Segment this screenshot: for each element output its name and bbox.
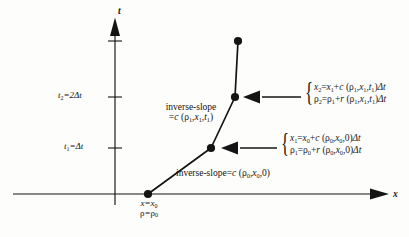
lower-callout: { x1=x0+c(ρ0,x0,0)Δt ρ1=ρ0+r(ρ0,x0,0)Δt [276, 133, 361, 155]
upper-inverse-slope-line1: inverse-slope [141, 102, 241, 112]
x-axis [13, 189, 389, 200]
lower-inverse-slope-line1: inverse-slope=c(ρ0,x0,0) [176, 168, 270, 178]
upper-inverse-slope-line2: =c(ρ1,x1,t1) [141, 112, 241, 122]
lower-callout-brace: { [281, 134, 289, 154]
upper-callout-arrow [243, 91, 301, 104]
point-t1 [207, 144, 215, 152]
upper-callout: { x2=x1+c(ρ1,x1,t1)Δt ρ2=ρ1+r(ρ1,x1,t1)Δ… [300, 82, 386, 104]
t-axis-label: t [118, 6, 121, 16]
x-axis-label: x [393, 189, 398, 199]
lower-callout-eq1: x1=x0+c(ρ0,x0,0)Δt [290, 133, 361, 143]
upper-callout-brace: { [305, 83, 313, 103]
lower-callout-eq2: ρ1=ρ0+r(ρ0,x0,0)Δt [290, 145, 361, 155]
point-t2 [231, 93, 239, 101]
lower-inverse-slope-label: inverse-slope=c(ρ0,x0,0) [176, 168, 270, 178]
t-axis [110, 18, 120, 206]
origin-point-label: x=x0 ρ=ρ0 [122, 199, 176, 218]
point-t3 [234, 37, 242, 45]
characteristic-diagram: t x t2=2Δt t1=Δt x=x0 ρ=ρ0 inverse-slope… [0, 0, 409, 237]
origin-label-line2: ρ=ρ0 [122, 209, 176, 219]
upper-callout-eq2: ρ2=ρ1+r(ρ1,x1,t1)Δt [314, 94, 386, 104]
point-origin [144, 190, 152, 198]
tick-label-t2: t2=2Δt [58, 91, 82, 101]
upper-inverse-slope-label: inverse-slope =c(ρ1,x1,t1) [141, 102, 241, 123]
lower-callout-arrow [221, 142, 277, 155]
upper-callout-eq1: x2=x1+c(ρ1,x1,t1)Δt [314, 82, 386, 92]
tick-label-t1: t1=Δt [64, 142, 83, 152]
